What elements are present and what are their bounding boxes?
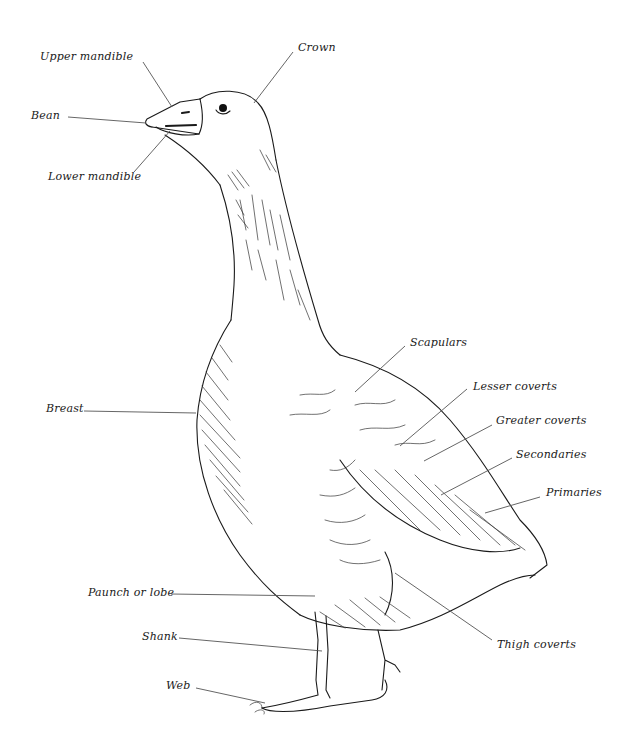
leader-line-secondaries — [441, 458, 512, 495]
leader-line-scapulars — [355, 346, 405, 392]
label-lesser-coverts: Lesser coverts — [473, 381, 557, 392]
leader-line-shank — [179, 638, 322, 651]
label-scapulars: Scapulars — [410, 337, 467, 348]
leader-line-web — [196, 688, 265, 703]
label-breast: Breast — [46, 403, 84, 414]
label-greater-coverts: Greater coverts — [496, 415, 587, 426]
leader-lines — [68, 52, 540, 703]
label-secondaries: Secondaries — [516, 449, 587, 460]
label-thigh-coverts: Thigh coverts — [497, 639, 576, 650]
leader-line-lower-mandible — [134, 131, 170, 172]
label-upper-mandible: Upper mandible — [40, 51, 133, 62]
leader-line-lesser-coverts — [400, 389, 467, 446]
leader-line-breast — [84, 411, 196, 413]
label-bean: Bean — [31, 110, 60, 121]
goose-body — [197, 320, 547, 630]
leader-line-crown — [254, 52, 293, 103]
leader-line-paunch-or-lobe — [171, 594, 315, 596]
label-web: Web — [166, 680, 191, 691]
goose-anatomy-diagram: Upper mandible Crown Bean Lower mandible… — [0, 0, 631, 754]
label-primaries: Primaries — [546, 487, 602, 498]
goose-neck — [220, 150, 340, 355]
leader-line-upper-mandible — [143, 62, 172, 107]
leader-line-bean — [68, 117, 146, 123]
leader-line-thigh-coverts — [395, 573, 492, 640]
leader-line-primaries — [485, 497, 540, 513]
label-lower-mandible: Lower mandible — [48, 171, 141, 182]
goose-legs — [250, 612, 400, 714]
goose-head — [146, 91, 276, 185]
label-shank: Shank — [142, 631, 178, 642]
label-paunch-or-lobe: Paunch or lobe — [88, 587, 174, 598]
label-crown: Crown — [298, 42, 336, 53]
